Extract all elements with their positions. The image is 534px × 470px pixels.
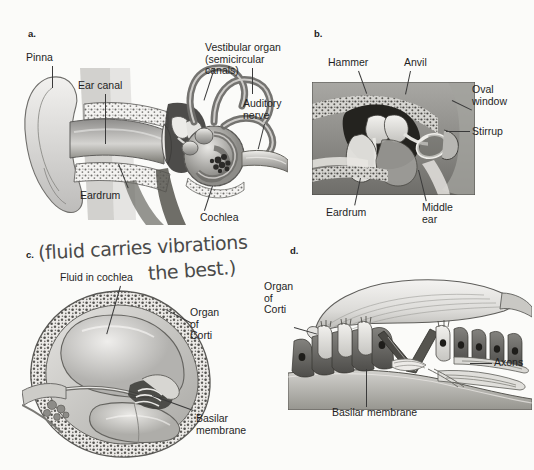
panel-d-label: d. <box>290 245 298 256</box>
label-middle-ear: Middle ear <box>422 202 453 225</box>
panel-d: d. <box>290 235 534 470</box>
figure-page: a. <box>0 0 534 470</box>
leader-pinna <box>52 66 53 88</box>
panel-b-artwork <box>312 82 475 195</box>
label-cochlea: Cochlea <box>200 212 239 224</box>
label-organ-of-corti-d: Organ of Corti <box>264 281 293 316</box>
label-anvil: Anvil <box>404 57 427 69</box>
panel-b-label: b. <box>314 28 322 39</box>
label-stirrup: Stirrup <box>472 126 503 138</box>
panel-b: b. <box>300 0 534 235</box>
leader-basilar-membrane-d <box>366 369 367 407</box>
panel-c-label: c. <box>26 249 34 260</box>
leader-stirrup <box>446 131 470 132</box>
label-basilar-membrane-d: Basilar membrane <box>332 407 417 419</box>
label-organ-of-corti-c: Organ of Corti <box>190 307 219 342</box>
panel-a-artwork <box>18 60 288 225</box>
leader-ear-canal <box>105 94 106 144</box>
leader-vestibular-organ-2 <box>252 68 253 94</box>
label-pinna: Pinna <box>26 52 53 64</box>
label-eardrum: Eardrum <box>80 190 120 202</box>
label-eardrum-b: Eardrum <box>326 207 366 219</box>
handwritten-note-line2: the best.) <box>147 256 236 284</box>
panel-a-label: a. <box>28 28 36 39</box>
panel-a: a. <box>0 0 300 235</box>
label-oval-window: Oval window <box>472 84 507 107</box>
label-axons: Axons <box>494 357 523 369</box>
panel-d-artwork <box>288 265 532 410</box>
label-fluid-in-cochlea: Fluid in cochlea <box>60 272 133 284</box>
leader-axons <box>470 363 492 364</box>
label-auditory-nerve: Auditory nerve <box>243 98 282 121</box>
label-ear-canal: Ear canal <box>78 80 122 92</box>
label-basilar-membrane-c: Basilar membrane <box>196 413 246 436</box>
label-hammer: Hammer <box>328 57 368 69</box>
panel-c: c. (fluid carries vibrations the best.) <box>0 235 290 470</box>
